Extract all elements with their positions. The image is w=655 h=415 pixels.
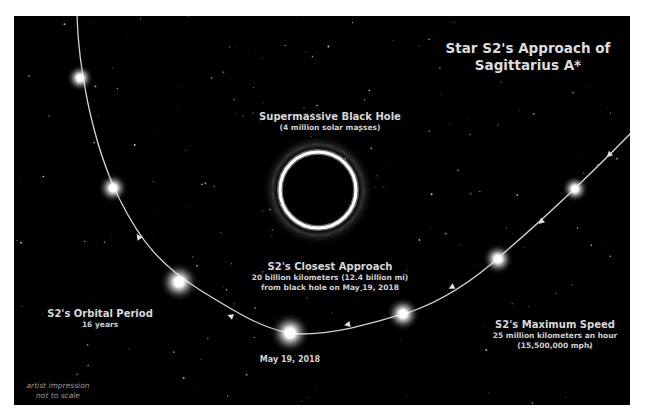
maximum-speed-metric: 25 million kilometers an hour: [460, 331, 650, 341]
arrow-icon: [344, 321, 351, 328]
closest-approach-heading: S2's Closest Approach: [230, 261, 430, 273]
black-hole-label: Supermassive Black Hole (4 million solar…: [230, 111, 430, 133]
black-hole: [262, 134, 374, 246]
maximum-speed-heading: S2's Maximum Speed: [460, 319, 650, 331]
closest-approach-distance: 20 billion kilometers (12.4 billion mi): [230, 273, 430, 283]
closest-approach-date: from black hole on May 19, 2018: [230, 283, 430, 293]
black-hole-mass: (4 million solar masses): [230, 123, 430, 133]
arrow-icon: [537, 218, 545, 226]
diagram-title: Star S2's Approach of Sagittarius A*: [418, 40, 638, 74]
title-line-2: Sagittarius A*: [418, 57, 638, 74]
title-line-1: Star S2's Approach of: [418, 40, 638, 57]
footnote-line-1: artist impression: [18, 381, 98, 391]
footnote-line-2: not to scale: [18, 391, 98, 401]
closest-approach-label: S2's Closest Approach 20 billion kilomet…: [230, 261, 430, 292]
closest-approach-date-label: May 19, 2018: [250, 355, 330, 365]
footnote: artist impression not to scale: [18, 381, 98, 401]
maximum-speed-label: S2's Maximum Speed 25 million kilometers…: [460, 319, 650, 350]
black-hole-heading: Supermassive Black Hole: [230, 111, 430, 123]
orbital-period-heading: S2's Orbital Period: [40, 308, 160, 320]
maximum-speed-imperial: (15,500,000 mph): [460, 341, 650, 351]
orbit-direction-arrows: [134, 151, 613, 328]
orbital-period-value: 16 years: [40, 320, 160, 330]
orbital-period-label: S2's Orbital Period 16 years: [40, 308, 160, 330]
arrow-icon: [226, 312, 234, 320]
